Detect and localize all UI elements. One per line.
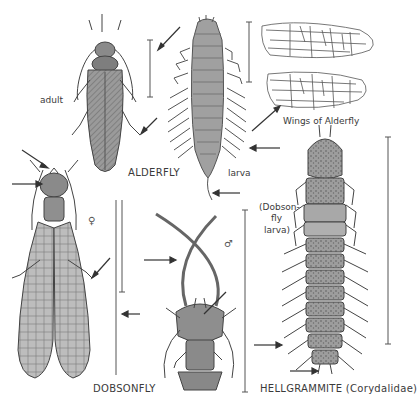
caption-wings-of-alderfly: Wings of Alderfly: [283, 117, 359, 126]
male-symbol: ♂: [224, 239, 233, 249]
alderfly-scale-bar: [147, 40, 153, 97]
wings-arrow: [252, 106, 280, 131]
caption-dobsonfly: DOBSONFLY: [93, 384, 156, 394]
dobsonfly-scale-bars: [116, 200, 125, 375]
label-larva: larva: [228, 169, 251, 178]
note-dobsonfly-larva-line3: larva): [264, 226, 290, 235]
male-head-scale-bar: [242, 210, 248, 392]
label-adult: adult: [40, 96, 63, 105]
larva-scale-bar: [246, 22, 252, 82]
note-dobsonfly-larva-line2: fly: [271, 214, 282, 223]
female-symbol: ♀: [88, 216, 95, 226]
dobsonfly-mid-arrow: [122, 311, 140, 317]
hellgrammite-scale-bar: [385, 137, 391, 344]
note-dobsonfly-larva-line1: (Dobson-: [259, 203, 300, 212]
alderfly-wings-drawing: [262, 23, 374, 110]
caption-alderfly: ALDERFLY: [128, 168, 180, 178]
alderfly-adult-drawing: [72, 14, 140, 172]
hellgrammite-drawing: [282, 125, 368, 374]
dobsonfly-female-drawing: [12, 160, 92, 378]
caption-hellgrammite: HELLGRAMMITE (Corydalidae): [260, 384, 417, 394]
